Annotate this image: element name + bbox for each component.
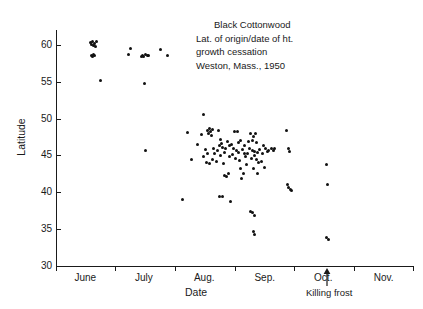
data-point bbox=[210, 134, 213, 137]
data-point bbox=[212, 147, 215, 150]
data-point bbox=[253, 214, 256, 217]
data-point bbox=[260, 160, 263, 163]
y-tick-mark bbox=[56, 229, 61, 230]
data-point bbox=[285, 129, 288, 132]
y-tick-label: 60 bbox=[12, 40, 52, 50]
y-tick-label-wrap: 30 bbox=[8, 261, 52, 271]
data-point bbox=[216, 149, 219, 152]
data-point bbox=[213, 152, 216, 155]
data-point bbox=[273, 147, 276, 150]
x-axis-title: Date bbox=[185, 286, 207, 298]
data-point bbox=[231, 153, 234, 156]
data-point bbox=[166, 54, 169, 57]
data-point bbox=[256, 151, 259, 154]
data-point bbox=[240, 177, 243, 180]
data-point bbox=[234, 157, 237, 160]
annotation-line-2: Lat. of origin/date of ht. bbox=[196, 32, 293, 46]
data-point bbox=[219, 154, 222, 157]
data-point bbox=[256, 172, 259, 175]
data-point bbox=[236, 130, 239, 133]
data-point bbox=[190, 158, 193, 161]
data-point bbox=[249, 132, 252, 135]
up-arrow-icon bbox=[322, 268, 332, 286]
data-point bbox=[211, 128, 214, 131]
data-point bbox=[252, 167, 255, 170]
data-point bbox=[206, 152, 209, 155]
data-point bbox=[144, 149, 147, 152]
data-point bbox=[228, 155, 231, 158]
data-point bbox=[219, 138, 222, 141]
data-point bbox=[215, 160, 218, 163]
data-point bbox=[238, 159, 241, 162]
data-point bbox=[244, 155, 247, 158]
data-point bbox=[241, 148, 244, 151]
data-point bbox=[217, 129, 220, 132]
data-point bbox=[94, 45, 97, 48]
data-point bbox=[239, 167, 242, 170]
data-point bbox=[253, 154, 256, 157]
scatter-plot-figure: 30354045505560 JuneJulyAug.Sep.Oct.Nov. … bbox=[0, 0, 423, 309]
y-tick-label-wrap: 35 bbox=[8, 224, 52, 234]
killing-frost-label: Killing frost bbox=[281, 287, 377, 298]
data-point bbox=[200, 133, 203, 136]
data-point bbox=[227, 172, 230, 175]
data-point bbox=[222, 162, 225, 165]
data-point bbox=[226, 140, 229, 143]
data-point bbox=[251, 139, 254, 142]
x-tick-label: July bbox=[114, 272, 174, 284]
chart-annotation-text: Black Cottonwood Lat. of origin/date of … bbox=[196, 18, 293, 72]
annotation-line-3: growth cessation bbox=[196, 45, 293, 59]
data-point bbox=[223, 151, 226, 154]
data-point bbox=[290, 189, 293, 192]
data-point bbox=[127, 53, 130, 56]
x-tick-mark bbox=[294, 266, 295, 271]
x-tick-mark bbox=[413, 266, 414, 271]
y-tick-label-wrap: 55 bbox=[8, 77, 52, 87]
data-point bbox=[253, 233, 256, 236]
data-point bbox=[258, 148, 261, 151]
y-tick-mark bbox=[56, 155, 61, 156]
x-tick-label: Nov. bbox=[354, 272, 414, 284]
data-point bbox=[229, 200, 232, 203]
data-point bbox=[202, 155, 205, 158]
data-point bbox=[261, 152, 264, 155]
x-tick-label: June bbox=[55, 272, 115, 284]
y-tick-mark bbox=[56, 119, 61, 120]
x-tick-mark bbox=[235, 266, 236, 271]
y-axis-line bbox=[56, 30, 57, 267]
data-point bbox=[208, 162, 211, 165]
y-axis-title: Latitude bbox=[15, 102, 27, 172]
data-point bbox=[143, 82, 146, 85]
data-point bbox=[129, 47, 132, 50]
data-point bbox=[327, 238, 330, 241]
data-point bbox=[250, 157, 253, 160]
y-tick-mark bbox=[56, 45, 61, 46]
data-point bbox=[254, 132, 257, 135]
data-point bbox=[243, 144, 246, 147]
data-point bbox=[147, 54, 150, 57]
data-point bbox=[247, 140, 250, 143]
data-point bbox=[255, 141, 258, 144]
data-point bbox=[196, 143, 199, 146]
data-point bbox=[211, 158, 214, 161]
data-point bbox=[288, 150, 291, 153]
x-tick-label: Sep. bbox=[235, 272, 295, 284]
data-point bbox=[326, 183, 329, 186]
y-tick-label: 40 bbox=[12, 187, 52, 197]
x-tick-mark bbox=[175, 266, 176, 271]
data-point bbox=[237, 151, 240, 154]
data-point bbox=[93, 54, 96, 57]
y-tick-label-wrap: 40 bbox=[8, 187, 52, 197]
x-tick-label: Aug. bbox=[174, 272, 234, 284]
data-point bbox=[325, 163, 328, 166]
y-tick-label-wrap: 60 bbox=[8, 40, 52, 50]
data-point bbox=[252, 135, 255, 138]
data-point bbox=[263, 166, 266, 169]
x-tick-mark bbox=[56, 266, 57, 271]
data-point bbox=[95, 40, 98, 43]
plot-area: 30354045505560 JuneJulyAug.Sep.Oct.Nov. … bbox=[0, 0, 423, 309]
y-tick-mark bbox=[56, 82, 61, 83]
data-point bbox=[99, 79, 102, 82]
data-point bbox=[267, 149, 270, 152]
data-point bbox=[245, 163, 248, 166]
